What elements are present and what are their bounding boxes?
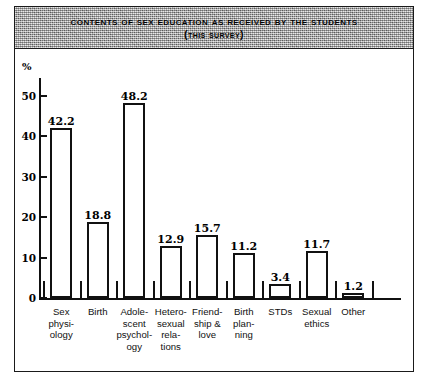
- y-axis-tick-label: 30: [21, 171, 36, 183]
- bar: 15.7: [196, 235, 218, 298]
- y-axis-tick-label: 10: [21, 252, 36, 264]
- bar: 11.2: [233, 253, 255, 298]
- y-axis-tick-label: 20: [21, 211, 36, 223]
- x-axis-line: [39, 298, 401, 300]
- x-axis-category-label-line: ology: [41, 329, 82, 341]
- x-axis-category-label-line: Friend-: [187, 306, 228, 318]
- y-axis-tick: 30: [41, 176, 47, 178]
- x-axis-category-label-line: STDs: [260, 306, 301, 318]
- y-axis-tick-label: 40: [21, 130, 36, 142]
- bar-value-label: 11.2: [230, 240, 257, 253]
- bar: 12.9: [160, 246, 182, 298]
- bar: 11.7: [306, 251, 328, 298]
- x-axis-category-label-line: psychol-: [114, 329, 155, 341]
- x-axis-category-label-line: Hetero-: [151, 306, 192, 318]
- x-axis-category-label: Adole-scentpsychol-ogy: [114, 306, 155, 352]
- x-axis-separator: [43, 281, 45, 298]
- x-axis-category-label-line: Sex: [41, 306, 82, 318]
- x-axis-category-label-line: Sexual: [297, 306, 338, 318]
- x-axis-separator: [80, 281, 82, 298]
- y-axis-tick: 50: [41, 95, 47, 97]
- y-axis-line: [39, 78, 41, 300]
- bar-value-label: 3.4: [271, 271, 290, 284]
- x-axis-separator: [335, 281, 337, 298]
- x-axis-category-label-line: rela-: [151, 329, 192, 341]
- y-axis-tick-label: 50: [21, 90, 36, 102]
- x-axis-category-label: Birthplan-ning: [224, 306, 265, 341]
- y-axis-tick: 10: [41, 257, 47, 259]
- x-axis-category-label: Hetero-sexualrela-tions: [151, 306, 192, 352]
- bar-value-label: 42.2: [48, 115, 75, 128]
- x-axis-category-label-line: Birth: [224, 306, 265, 318]
- x-axis-category-label-line: plan-: [224, 318, 265, 330]
- bar: 18.8: [87, 222, 109, 298]
- x-axis-category-label-line: physi-: [41, 318, 82, 330]
- chart-title-band: Contents of Sex Education as Received by…: [15, 7, 413, 49]
- x-axis-category-label-line: scent: [114, 318, 155, 330]
- bar: 48.2: [123, 103, 145, 298]
- bar-value-label: 15.7: [194, 222, 221, 235]
- x-axis-category-label-line: ship &: [187, 318, 228, 330]
- x-axis-separator: [299, 281, 301, 298]
- x-axis-category-label-line: ogy: [114, 341, 155, 353]
- x-axis-category-label: Friend-ship &love: [187, 306, 228, 341]
- x-axis-separator: [226, 281, 228, 298]
- x-axis-category-label-line: ning: [224, 329, 265, 341]
- plot-area: % 01020304050 42.218.848.212.915.711.23.…: [39, 78, 401, 300]
- x-axis-separator: [153, 281, 155, 298]
- y-axis-tick-label: 0: [29, 292, 36, 304]
- x-axis-category-label-line: ethics: [297, 318, 338, 330]
- x-axis-category-label: Sexphysi-ology: [41, 306, 82, 341]
- bar: 42.2: [50, 128, 72, 298]
- chart-title: Contents of Sex Education as Received by…: [71, 14, 358, 28]
- x-axis-separator: [372, 281, 374, 298]
- x-axis-category-label-line: Adole-: [114, 306, 155, 318]
- x-axis-category-labels: Sexphysi-ologyBirthAdole-scentpsychol-og…: [39, 306, 401, 368]
- x-axis-category-label-line: sexual: [151, 318, 192, 330]
- x-axis-category-label: STDs: [260, 306, 301, 318]
- bar-value-label: 48.2: [121, 90, 148, 103]
- bar-value-label: 18.8: [84, 209, 111, 222]
- x-axis-category-label-line: Other: [333, 306, 374, 318]
- x-axis-category-label: Birth: [78, 306, 119, 318]
- x-axis-category-label-line: Birth: [78, 306, 119, 318]
- bar: 1.2: [342, 293, 364, 298]
- bar: 3.4: [269, 284, 291, 298]
- figure-container: Contents of Sex Education as Received by…: [0, 0, 428, 385]
- y-axis-tick: 20: [41, 216, 47, 218]
- x-axis-separator: [116, 281, 118, 298]
- x-axis-category-label: Sexualethics: [297, 306, 338, 329]
- bar-value-label: 12.9: [157, 233, 184, 246]
- bar-value-label: 1.2: [344, 280, 363, 293]
- x-axis-category-label-line: tions: [151, 341, 192, 353]
- x-axis-separator: [262, 281, 264, 298]
- x-axis-category-label-line: love: [187, 329, 228, 341]
- x-axis-separator: [189, 281, 191, 298]
- y-axis-tick: 40: [41, 135, 47, 137]
- y-axis-unit-label: %: [22, 61, 32, 72]
- x-axis-category-label: Other: [333, 306, 374, 318]
- chart-subtitle: (This survey): [184, 28, 244, 41]
- bar-value-label: 11.7: [303, 238, 330, 251]
